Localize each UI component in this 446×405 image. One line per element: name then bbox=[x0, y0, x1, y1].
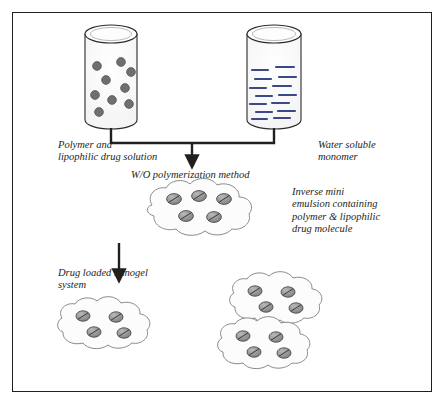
monomer-beaker bbox=[247, 25, 301, 129]
polymer-beaker bbox=[85, 25, 137, 129]
label-polymer-solution: Polymer and lipophilic drug solution bbox=[58, 139, 178, 164]
nanogel-cloud-1 bbox=[230, 272, 322, 324]
label-water-soluble-monomer: Water soluble monomer bbox=[318, 139, 428, 164]
nanogel-cloud-3 bbox=[218, 317, 310, 369]
label-drug-loaded-nanogel: Drug loaded nanogel system bbox=[58, 267, 208, 292]
diagram-canvas: Polymer and lipophilic drug solution Wat… bbox=[0, 0, 446, 405]
emulsion-cloud-main bbox=[147, 178, 251, 235]
nanogel-cloud-2 bbox=[58, 297, 150, 349]
label-polymerization-method: W/O polymerization method bbox=[131, 169, 321, 181]
label-inverse-mini-emulsion: Inverse mini emulsion containing polymer… bbox=[292, 186, 430, 236]
